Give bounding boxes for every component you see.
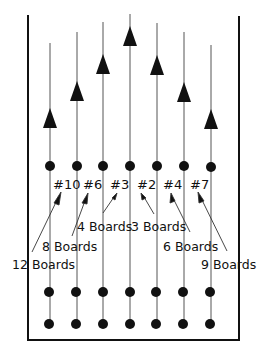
board-label-8: 8 Boards: [42, 239, 97, 254]
dot-row-lower: [44, 319, 215, 329]
board-labels: 12 Boards 8 Boards 4 Boards 3 Boards 6 B…: [12, 219, 256, 272]
arrow-marker-icon: [123, 26, 137, 46]
pin-label-10: #10: [53, 177, 80, 192]
arrow-marker-icon: [177, 82, 191, 102]
pin-label-4: #4: [163, 177, 182, 192]
pin-label-2: #2: [137, 177, 156, 192]
arrow-marker-icon: [43, 108, 57, 128]
arrow-marker-icon: [150, 55, 164, 75]
pin-label-7: #7: [190, 177, 209, 192]
pointer-arrowhead-icon: [112, 193, 117, 200]
board-label-3: 3 Boards: [131, 219, 186, 234]
pin-label-3: #3: [110, 177, 129, 192]
board-label-6: 6 Boards: [163, 239, 218, 254]
pin-labels: #10 #6 #3 #2 #4 #7: [53, 177, 209, 192]
arrow-marker-icon: [204, 109, 218, 129]
board-label-12: 12 Boards: [12, 257, 75, 272]
arrow-marker-icon: [70, 81, 84, 101]
dot-row-middle: [44, 287, 215, 297]
dot-row-upper: [45, 161, 216, 172]
pointer-arrowhead-icon: [82, 193, 88, 204]
board-label-9: 9 Boards: [201, 257, 256, 272]
pin-label-6: #6: [83, 177, 102, 192]
pointer-arrowhead-icon: [54, 192, 61, 205]
bowling-lane-diagram: #10 #6 #3 #2 #4 #7 12 Boards 8 Boards 4 …: [0, 0, 257, 354]
board-label-4: 4 Boards: [77, 219, 132, 234]
pointer-arrowhead-icon: [198, 192, 204, 203]
arrow-marker-icon: [96, 54, 110, 74]
pointer-arrowhead-icon: [170, 193, 175, 203]
